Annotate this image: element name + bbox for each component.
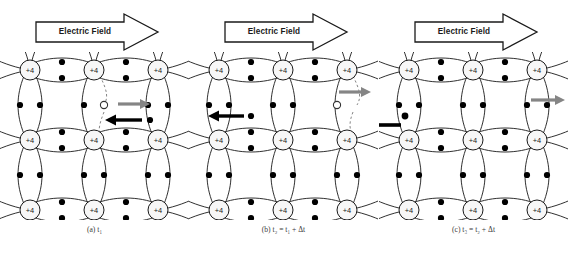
svg-text:+4: +4 xyxy=(533,206,541,215)
broken-bond-b xyxy=(350,76,360,134)
moving-electron-a xyxy=(147,117,153,123)
hole-circle-b xyxy=(333,101,340,108)
svg-text:+4: +4 xyxy=(405,206,413,215)
electric-field-label: Electric Field xyxy=(425,25,503,39)
svg-text:+4: +4 xyxy=(279,136,287,145)
svg-text:+4: +4 xyxy=(215,206,223,215)
moving-electron-c xyxy=(402,113,409,120)
svg-text:+4: +4 xyxy=(90,206,98,215)
svg-text:+4: +4 xyxy=(215,136,223,145)
electron-motion-arrow-a xyxy=(105,115,142,126)
atom-cores-b: +4 +4 +4 +4 +4 +4 +4 +4 +4 xyxy=(209,60,357,220)
panel-b: Electric Field xyxy=(189,0,378,254)
svg-text:+4: +4 xyxy=(405,136,413,145)
lattice-b: +4 +4 +4 +4 +4 +4 +4 +4 +4 xyxy=(189,52,378,220)
svg-text:+4: +4 xyxy=(154,136,162,145)
svg-text:+4: +4 xyxy=(533,136,541,145)
hole-circle-a xyxy=(100,101,107,108)
svg-text:+4: +4 xyxy=(90,136,98,145)
hole-motion-arrow-a xyxy=(118,99,150,109)
svg-text:+4: +4 xyxy=(343,66,351,75)
caption-a: (a) t₁ xyxy=(0,225,189,234)
caption-b-text: (b) t₂ = t₁ + Δt xyxy=(262,225,305,234)
hole-motion-arrow-b xyxy=(339,87,371,97)
svg-text:+4: +4 xyxy=(26,136,34,145)
atom-cores-c: +4 +4 +4 +4 +4 +4 +4 +4 +4 xyxy=(399,60,547,220)
electron-exit-arrow-c xyxy=(379,119,401,131)
moving-electron-b xyxy=(248,113,254,119)
svg-text:+4: +4 xyxy=(90,66,98,75)
electric-field-banner-a: Electric Field xyxy=(32,12,162,52)
figure-root: Electric Field xyxy=(0,0,568,254)
atom-cores-a: +4 +4 +4 +4 +4 +4 +4 +4 +4 xyxy=(20,60,168,220)
caption-c: (c) t₃ = t₂ + Δt xyxy=(379,225,568,234)
svg-text:+4: +4 xyxy=(154,66,162,75)
panel-c: Electric Field xyxy=(379,0,568,254)
svg-text:+4: +4 xyxy=(26,206,34,215)
electric-field-label: Electric Field xyxy=(235,25,313,39)
caption-a-text: (a) t₁ xyxy=(87,225,102,234)
svg-text:+4: +4 xyxy=(405,66,413,75)
svg-text:+4: +4 xyxy=(154,206,162,215)
panel-a: Electric Field xyxy=(0,0,189,254)
svg-text:+4: +4 xyxy=(469,206,477,215)
svg-text:+4: +4 xyxy=(469,136,477,145)
electron-motion-arrow-b xyxy=(208,111,244,122)
electric-field-label: Electric Field xyxy=(46,25,124,39)
svg-text:+4: +4 xyxy=(26,66,34,75)
caption-b: (b) t₂ = t₁ + Δt xyxy=(189,225,378,234)
svg-text:+4: +4 xyxy=(279,206,287,215)
svg-text:+4: +4 xyxy=(533,66,541,75)
svg-text:+4: +4 xyxy=(215,66,223,75)
caption-c-text: (c) t₃ = t₂ + Δt xyxy=(452,225,495,234)
svg-text:+4: +4 xyxy=(343,206,351,215)
electric-field-banner-c: Electric Field xyxy=(411,12,541,52)
lattice-a: +4 +4 +4 +4 +4 +4 +4 +4 +4 xyxy=(0,52,189,220)
electric-field-banner-b: Electric Field xyxy=(221,12,351,52)
svg-text:+4: +4 xyxy=(469,66,477,75)
svg-text:+4: +4 xyxy=(279,66,287,75)
svg-text:+4: +4 xyxy=(343,136,351,145)
lattice-c: +4 +4 +4 +4 +4 +4 +4 +4 +4 xyxy=(379,52,568,220)
